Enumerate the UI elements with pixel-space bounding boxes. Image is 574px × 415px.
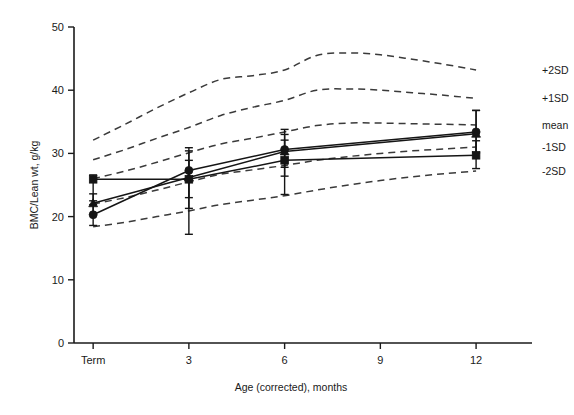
x-tick-label: 3 [186,354,192,366]
y-tick-label: 20 [52,211,64,223]
marker-square [472,151,480,159]
legend-label-plus2SD: +2SD [542,64,569,76]
x-tick-label: Term [81,354,105,366]
x-axis-title: Age (corrected), months [235,381,348,393]
legend-label-mean: mean [542,119,568,131]
chart-svg: 01020304050Term36912Age (corrected), mon… [0,0,574,415]
y-axis-title: BMC/Lean wt, g/kg [28,140,40,229]
marker-square [185,176,193,184]
chart-figure: 01020304050Term36912Age (corrected), mon… [0,0,574,415]
legend-label-minus1SD: -1SD [542,141,566,153]
marker-square [281,157,289,165]
y-tick-label: 10 [52,274,64,286]
x-tick-label: 6 [282,354,288,366]
y-tick-label: 30 [52,147,64,159]
x-tick-label: 12 [470,354,482,366]
y-tick-label: 50 [52,21,64,33]
reference-curve-plus2SD [93,53,476,140]
y-tick-label: 0 [58,337,64,349]
legend-label-minus2SD: -2SD [542,165,566,177]
x-tick-label: 9 [377,354,383,366]
marker-square [89,176,97,184]
y-tick-label: 40 [52,84,64,96]
legend-label-plus1SD: +1SD [542,92,569,104]
